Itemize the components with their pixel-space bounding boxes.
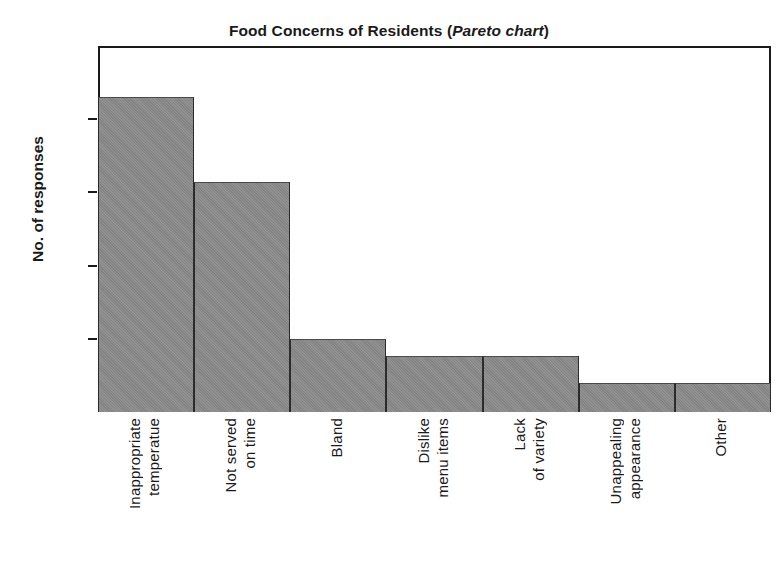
bar bbox=[483, 356, 579, 412]
x-axis-label-line: Unappealing bbox=[607, 418, 624, 504]
x-axis-label: Other bbox=[712, 418, 731, 558]
bar bbox=[675, 383, 771, 412]
x-axis-label-line: Bland bbox=[328, 418, 345, 457]
x-axis-label: Inappropriatetemperatue bbox=[126, 418, 164, 558]
x-axis-label: Not servedon time bbox=[222, 418, 260, 558]
x-axis-label: Bland bbox=[328, 418, 347, 558]
x-axis-label-line: appearance bbox=[626, 418, 643, 499]
chart-title-close: ) bbox=[544, 22, 549, 39]
y-axis-tick-mark bbox=[88, 338, 97, 340]
bar bbox=[194, 182, 290, 412]
bar bbox=[290, 339, 386, 412]
bar bbox=[386, 356, 482, 412]
x-axis-label: Dislikemenu items bbox=[415, 418, 453, 558]
x-axis-label-line: Lack bbox=[511, 418, 528, 451]
chart-title-emphasis: Pareto chart bbox=[452, 22, 544, 39]
y-axis-tick-mark bbox=[88, 118, 97, 120]
bar bbox=[579, 383, 675, 412]
x-axis-label-line: on time bbox=[241, 418, 258, 469]
chart-title-main: Food Concerns of Residents ( bbox=[229, 22, 452, 39]
x-axis-label-line: Dislike bbox=[415, 418, 432, 464]
x-axis-label: Unappealingappearance bbox=[607, 418, 645, 558]
pareto-chart-figure: Food Concerns of Residents (Pareto chart… bbox=[0, 0, 778, 566]
x-axis-label: Lackof variety bbox=[511, 418, 549, 558]
x-axis-label-line: Inappropriate bbox=[126, 418, 143, 509]
x-axis-label-line: menu items bbox=[434, 418, 451, 498]
x-axis-label-line: of variety bbox=[530, 418, 547, 481]
bar bbox=[98, 97, 194, 412]
x-axis-label-line: Other bbox=[712, 418, 729, 457]
chart-title: Food Concerns of Residents (Pareto chart… bbox=[0, 22, 778, 40]
x-axis-label-line: temperatue bbox=[145, 418, 162, 496]
y-axis-tick-mark bbox=[88, 191, 97, 193]
y-axis-tick-mark bbox=[88, 265, 97, 267]
x-axis-label-line: Not served bbox=[222, 418, 239, 493]
y-axis-title: No. of responses bbox=[29, 99, 47, 299]
